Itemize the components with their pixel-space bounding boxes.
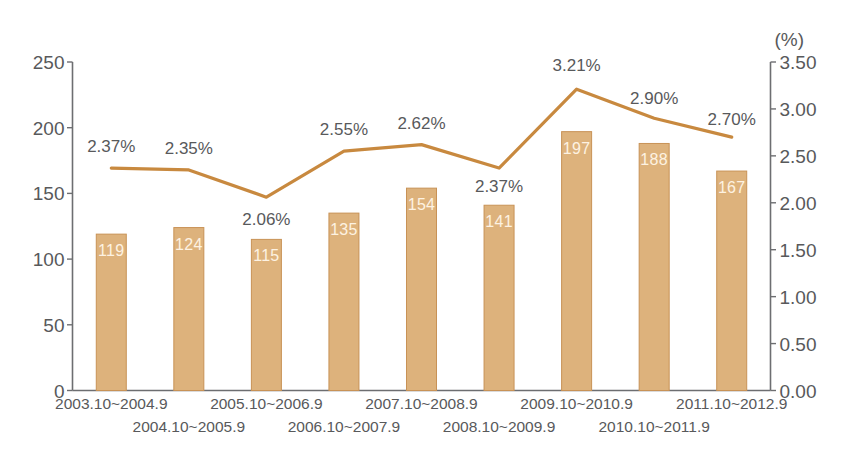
- line-value-label: 3.21%: [538, 57, 616, 74]
- category-label: 2009.10~2010.9: [505, 396, 649, 412]
- bar-value-label: 197: [551, 141, 603, 157]
- line-value-label: 2.35%: [150, 140, 228, 157]
- bar-rect: [329, 213, 359, 390]
- bar-value-label: 135: [318, 222, 370, 238]
- bar-rect: [407, 188, 437, 390]
- line-value-label: 2.37%: [460, 178, 538, 195]
- bar-value-label: 119: [85, 243, 137, 259]
- right-axis-tick-label: 3.50: [780, 53, 843, 72]
- category-label: 2010.10~2011.9: [582, 419, 726, 435]
- bar-rect: [717, 171, 747, 390]
- bar: [407, 188, 437, 390]
- left-axis-tick-label: 50: [3, 316, 65, 335]
- bar: [329, 213, 359, 390]
- line-value-label: 2.90%: [615, 90, 693, 107]
- bar: [562, 132, 592, 391]
- category-label: 2007.10~2008.9: [350, 396, 494, 412]
- category-label: 2004.10~2005.9: [117, 419, 261, 435]
- right-axis-tick-label: 2.00: [780, 194, 843, 213]
- left-axis-tick-label: 150: [3, 184, 65, 203]
- left-axis-tick-label: 100: [3, 250, 65, 269]
- bar-value-label: 167: [706, 180, 758, 196]
- bar-value-label: 188: [628, 152, 680, 168]
- category-label: 2003.10~2004.9: [39, 396, 183, 412]
- bar-value-label: 141: [473, 214, 525, 230]
- bar: [717, 171, 747, 390]
- bar-value-label: 124: [163, 237, 215, 253]
- chart-container: (%) 250200150100500 3.503.002.502.001.50…: [0, 0, 843, 467]
- line-value-label: 2.37%: [72, 138, 150, 155]
- bar-value-label: 115: [240, 248, 292, 264]
- line-value-label: 2.62%: [383, 115, 461, 132]
- left-axis-tick-label: 250: [3, 53, 65, 72]
- category-label: 2011.10~2012.9: [660, 396, 804, 412]
- line-value-label: 2.55%: [305, 121, 383, 138]
- category-label: 2006.10~2007.9: [272, 419, 416, 435]
- bar: [639, 143, 669, 390]
- right-axis-tick-label: 1.00: [780, 288, 843, 307]
- bar: [484, 205, 514, 390]
- left-axis-tick-label: 200: [3, 119, 65, 138]
- line-value-label: 2.06%: [227, 211, 305, 228]
- bar-rect: [562, 132, 592, 391]
- bar-rect: [484, 205, 514, 390]
- line-value-label: 2.70%: [693, 111, 771, 128]
- bar-rect: [639, 143, 669, 390]
- right-axis-tick-label: 0.50: [780, 335, 843, 354]
- right-axis-tick-label: 2.50: [780, 147, 843, 166]
- category-label: 2008.10~2009.9: [427, 419, 571, 435]
- bar-value-label: 154: [396, 197, 448, 213]
- right-axis-tick-label: 3.00: [780, 100, 843, 119]
- right-axis-tick-label: 1.50: [780, 241, 843, 260]
- category-label: 2005.10~2006.9: [194, 396, 338, 412]
